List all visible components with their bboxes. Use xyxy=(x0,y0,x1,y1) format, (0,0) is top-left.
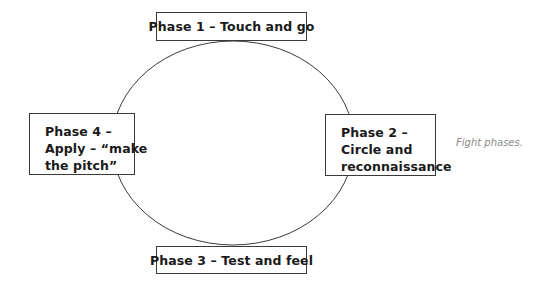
phase-2-line-3: reconnaissance xyxy=(341,158,435,175)
phase-3-label: Phase 3 – Test and feel xyxy=(150,252,313,269)
phase-4-line-1: Phase 4 – xyxy=(45,123,134,140)
phase-4-line-2: Apply – “make xyxy=(45,140,134,157)
phase-1-label: Phase 1 – Touch and go xyxy=(149,18,315,35)
phase-4-line-3: the pitch” xyxy=(45,157,134,174)
phase-2-line-2: Circle and xyxy=(341,141,435,158)
phase-3-box: Phase 3 – Test and feel xyxy=(156,246,307,274)
phase-4-box: Phase 4 – Apply – “make the pitch” xyxy=(29,113,135,175)
phase-2-box: Phase 2 – Circle and reconnaissance xyxy=(325,114,436,176)
phase-1-box: Phase 1 – Touch and go xyxy=(156,12,307,41)
fight-phases-diagram: Phase 1 – Touch and go Phase 2 – Circle … xyxy=(0,0,536,287)
phase-2-line-1: Phase 2 – xyxy=(341,124,435,141)
figure-caption: Fight phases. xyxy=(456,137,523,148)
